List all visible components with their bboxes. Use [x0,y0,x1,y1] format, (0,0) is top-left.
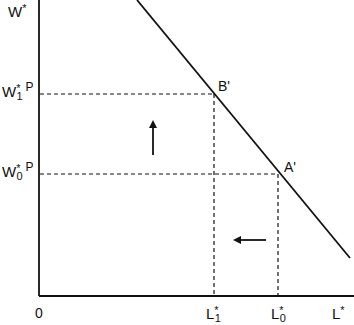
y-axis-label: W* [8,4,26,19]
x-tick-l1: L*1 [206,306,221,321]
diagram-canvas [0,0,354,325]
x-axis-label: L* [332,306,345,321]
labor-demand-line [137,0,350,258]
point-a-prime-label: A' [284,160,296,174]
point-b-prime-label: B' [218,79,230,93]
y-tick-w0p: W*0P [2,164,34,179]
x-tick-l0: L*0 [271,306,286,321]
y-tick-w1p: W*1P [2,84,34,99]
origin-label: 0 [35,306,43,320]
